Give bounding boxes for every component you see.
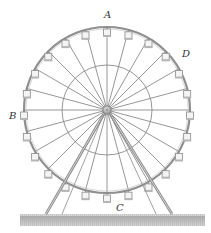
left-leg-highlight: [46, 112, 105, 214]
spoke: [36, 110, 107, 151]
label-a: A: [103, 9, 111, 20]
spoke: [49, 52, 107, 110]
spoke: [36, 69, 107, 110]
gondola: [31, 152, 39, 162]
spoke: [28, 89, 107, 110]
label-d: D: [181, 48, 190, 59]
gondola: [175, 152, 183, 162]
spoke: [107, 110, 128, 189]
ferris-wheel-diagram: A D B C: [0, 0, 211, 233]
spoke: [107, 89, 186, 110]
gondola: [183, 89, 191, 99]
spoke: [86, 31, 107, 110]
hub-center: [106, 109, 109, 112]
gondola: [23, 89, 31, 99]
gondola: [186, 110, 194, 120]
spoke: [107, 52, 165, 110]
label-c: C: [116, 202, 124, 213]
ground: [20, 214, 205, 226]
spoke: [66, 39, 107, 110]
label-b: B: [8, 110, 16, 121]
spoke: [107, 31, 128, 110]
gondola: [103, 27, 111, 37]
spoke: [107, 69, 178, 110]
gondola: [103, 193, 111, 203]
gondola: [20, 110, 28, 120]
right-leg-highlight: [109, 112, 172, 214]
right-inner-brace: [110, 114, 156, 214]
spoke: [107, 110, 165, 168]
spoke: [107, 39, 148, 110]
